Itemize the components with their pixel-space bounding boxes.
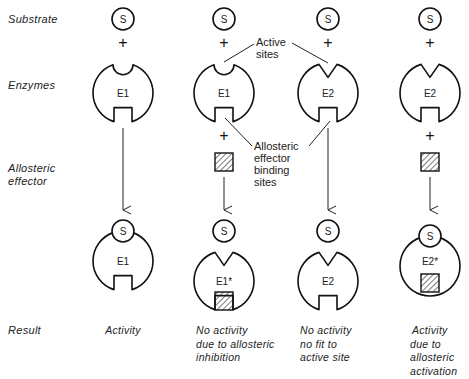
substrate-bottom: S xyxy=(213,220,235,242)
row-label-allosteric-effector-2: effector xyxy=(8,175,48,187)
enzyme-label: E2 xyxy=(322,88,335,99)
substrate-label: S xyxy=(120,14,127,25)
substrate-label: S xyxy=(221,226,228,237)
enzyme-label: E2* xyxy=(422,256,438,267)
allosteric-effector-icon xyxy=(421,153,439,171)
row-label-result: Result xyxy=(8,324,42,336)
callout-allosteric-line4: sites xyxy=(254,176,277,188)
result-line: due to allosteric xyxy=(196,338,275,350)
callout-allosteric-binding-sites: Allosteric effector binding sites xyxy=(225,118,330,188)
enzyme-label: E1 xyxy=(117,256,130,267)
result-line: due to xyxy=(410,338,441,350)
callout-active-sites-line2: sites xyxy=(256,48,279,60)
enzyme-label: E1* xyxy=(216,276,232,287)
result-text: No activitydue to allostericinhibition xyxy=(196,324,275,363)
result-line: No activity xyxy=(196,324,248,336)
result-line: activation xyxy=(410,365,457,377)
enzyme-label: E2 xyxy=(424,88,437,99)
plus-sign: + xyxy=(118,34,127,51)
column-3: S+E2E2SNo activityno fit toactive site xyxy=(298,8,358,363)
substrate-label: S xyxy=(221,14,228,25)
substrate-label: S xyxy=(120,226,127,237)
column-4: S+E2+E2*SActivitydue toallostericactivat… xyxy=(400,8,460,377)
enzyme-before: E2 xyxy=(400,64,460,121)
allosteric-effector-icon xyxy=(215,153,233,171)
row-label-allosteric-effector-1: Allosteric xyxy=(7,162,56,174)
result-line: No activity xyxy=(300,324,352,336)
substrate-bottom: S xyxy=(317,220,339,242)
substrate-top: S xyxy=(419,8,441,30)
plus-sign: + xyxy=(219,127,228,144)
enzyme-label: E1 xyxy=(218,88,231,99)
result-text: Activitydue toallostericactivation xyxy=(410,324,457,377)
callout-allosteric-line2: effector xyxy=(254,152,291,164)
result-line: active site xyxy=(300,351,350,363)
callout-allosteric-line1: Allosteric xyxy=(254,140,299,152)
enzyme-before: E2 xyxy=(298,64,358,121)
result-line: no fit to xyxy=(300,338,337,350)
substrate-bottom: S xyxy=(112,220,134,242)
enzyme-label: E2 xyxy=(322,276,335,287)
substrate-label: S xyxy=(427,14,434,25)
leader-line-allosteric-e1 xyxy=(225,118,252,146)
bound-effector-icon xyxy=(421,274,439,292)
leader-line-allosteric-e2 xyxy=(309,121,330,146)
enzyme-before: E1 xyxy=(194,65,254,122)
result-line: inhibition xyxy=(196,351,240,363)
result-text: Activity xyxy=(104,324,141,336)
plus-sign: + xyxy=(425,127,434,144)
allosteric-regulation-diagram: Substrate Enzymes Allosteric effector Re… xyxy=(0,0,469,379)
enzyme-before: E1 xyxy=(93,65,153,122)
result-line: allosteric xyxy=(410,351,455,363)
substrate-top: S xyxy=(213,8,235,30)
result-line: Activity xyxy=(411,324,448,336)
column-1: S+E1E1SActivity xyxy=(93,8,153,336)
result-line: Activity xyxy=(104,324,141,336)
substrate-bottom: S xyxy=(419,225,441,247)
plus-sign: + xyxy=(425,34,434,51)
enzyme-after: E2 xyxy=(298,252,358,309)
enzyme-label: E1 xyxy=(117,88,130,99)
substrate-label: S xyxy=(325,226,332,237)
substrate-label: S xyxy=(325,14,332,25)
plus-sign: + xyxy=(219,34,228,51)
enzyme-after: E1* xyxy=(194,252,254,310)
substrate-top: S xyxy=(317,8,339,30)
substrate-label: S xyxy=(427,231,434,242)
plus-sign: + xyxy=(323,34,332,51)
result-text: No activityno fit toactive site xyxy=(300,324,352,363)
bound-effector-icon xyxy=(215,292,233,310)
row-label-enzymes: Enzymes xyxy=(8,79,56,91)
callout-active-sites: Active sites xyxy=(224,36,328,63)
substrate-top: S xyxy=(112,8,134,30)
row-label-substrate: Substrate xyxy=(8,13,58,25)
callout-active-sites-line1: Active xyxy=(256,36,286,48)
callout-allosteric-line3: binding xyxy=(254,164,289,176)
